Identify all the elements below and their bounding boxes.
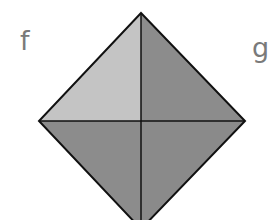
diamond-diagram <box>0 0 271 220</box>
label-g: g <box>252 34 269 61</box>
label-f: f <box>20 27 30 54</box>
